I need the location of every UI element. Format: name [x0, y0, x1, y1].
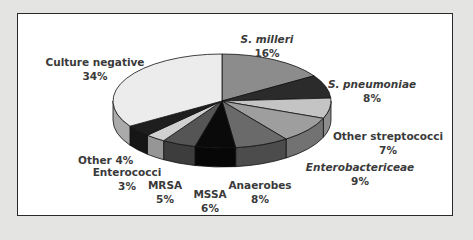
label-value: 6% — [185, 201, 235, 215]
label-value: 34% — [40, 69, 150, 83]
label-name: MSSA — [185, 187, 235, 201]
label-other: Other 4% — [78, 153, 133, 167]
label-value: 8% — [322, 91, 422, 105]
label-value: 3% — [92, 179, 162, 193]
label-name: Other streptococci — [328, 129, 448, 143]
label-value: 9% — [300, 174, 420, 188]
label-name: S. milleri — [232, 32, 302, 46]
label-value: 5% — [140, 192, 190, 206]
label-value: 16% — [232, 46, 302, 60]
pie-side-5 — [195, 147, 236, 167]
label-name: S. pneumoniae — [322, 77, 422, 91]
label-culture-negative: Culture negative 34% — [40, 55, 150, 83]
label-name: Enterococci — [92, 165, 162, 179]
label-name: Other 4% — [78, 153, 133, 167]
label-enterococci: Enterococci 3% — [92, 165, 162, 193]
label-value: 8% — [225, 192, 295, 206]
label-enterobactericeae: Enterobactericeae 9% — [300, 160, 420, 188]
label-name: Anaerobes — [225, 178, 295, 192]
label-mssa: MSSA 6% — [185, 187, 235, 215]
label-s-pneumoniae: S. pneumoniae 8% — [322, 77, 422, 105]
label-anaerobes: Anaerobes 8% — [225, 178, 295, 206]
label-name: Enterobactericeae — [300, 160, 420, 174]
label-other-streptococci: Other streptococci 7% — [328, 129, 448, 157]
label-name: Culture negative — [40, 55, 150, 69]
label-s-milleri: S. milleri 16% — [232, 32, 302, 60]
label-value: 7% — [328, 143, 448, 157]
